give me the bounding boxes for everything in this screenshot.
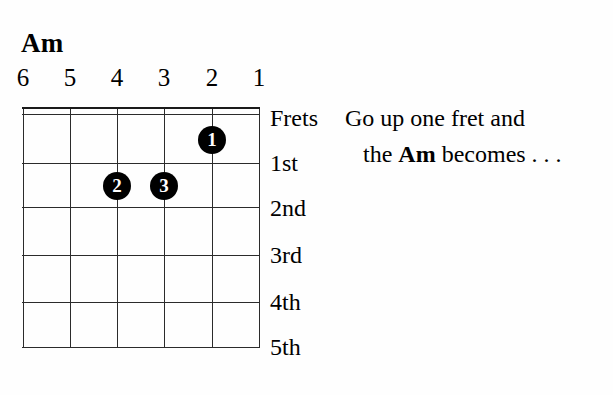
finger-dot-1: 1 (198, 126, 226, 154)
fret-line-3 (22, 207, 260, 208)
fret-label-3rd: 3rd (270, 242, 302, 268)
string-number-3: 3 (149, 63, 179, 93)
finger-dot-2: 2 (103, 172, 131, 200)
fret-label-frets: Frets (270, 105, 318, 131)
fret-line-4 (22, 255, 260, 256)
fret-line-5 (22, 302, 260, 303)
finger-dot-3: 3 (150, 172, 178, 200)
fret-label-2nd: 2nd (270, 195, 306, 221)
chord-diagram-page: Am 654321 123 Frets1st2nd3rd4th5th Go up… (0, 0, 613, 395)
fret-label-1st: 1st (270, 150, 298, 176)
string-number-4: 4 (102, 63, 132, 93)
fret-line-6 (22, 347, 260, 348)
fret-line-2 (22, 163, 260, 164)
string-line-4 (117, 107, 118, 347)
string-line-5 (70, 107, 71, 347)
fret-label-5th: 5th (270, 334, 301, 360)
string-number-row: 654321 (23, 63, 260, 93)
string-line-6 (23, 107, 24, 347)
string-number-5: 5 (55, 63, 85, 93)
string-number-1: 1 (244, 63, 274, 93)
nut-line (22, 107, 260, 109)
fret-line-1 (22, 114, 260, 115)
fret-label-4th: 4th (270, 289, 301, 315)
caption-line-2: the Am becomes . . . (345, 136, 610, 172)
string-line-1 (259, 107, 260, 347)
string-number-6: 6 (8, 63, 38, 93)
fret-label-column: Frets1st2nd3rd4th5th (270, 100, 340, 365)
string-line-3 (164, 107, 165, 347)
string-number-2: 2 (197, 63, 227, 93)
caption-line-1: Go up one fret and (345, 105, 525, 131)
chord-name-title: Am (21, 29, 64, 57)
caption-line-2-prefix: the (363, 141, 398, 167)
fretboard-grid: 123 (23, 107, 259, 347)
caption-line-2-suffix: becomes . . . (436, 141, 562, 167)
caption-chord-name: Am (398, 141, 435, 167)
caption-text: Go up one fret and the Am becomes . . . (345, 100, 610, 172)
